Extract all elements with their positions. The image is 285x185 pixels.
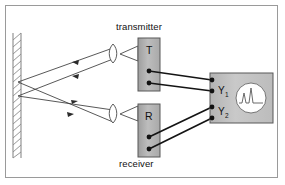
transmitter-horn bbox=[120, 46, 138, 61]
receiver-label: receiver bbox=[119, 158, 154, 169]
beam-arrowheads bbox=[67, 60, 79, 117]
scope-input-y1a bbox=[210, 78, 215, 83]
beam-paths bbox=[18, 48, 113, 122]
scope-label-y1-sub: 1 bbox=[225, 91, 229, 98]
receiver-lens bbox=[109, 104, 117, 123]
scope-label-y1: Y bbox=[218, 85, 225, 96]
scope-screen bbox=[236, 83, 266, 113]
scope-input-y2b bbox=[210, 116, 215, 121]
scope-input-y2a bbox=[210, 105, 215, 110]
receiver-horn bbox=[120, 106, 138, 121]
transmitter-box-label: T bbox=[146, 44, 153, 56]
transmitter-label: transmitter bbox=[116, 21, 162, 32]
scope-input-y1b bbox=[210, 89, 215, 94]
receiver-box-label: R bbox=[145, 110, 153, 122]
diagram-canvas: T R Y 1 Y 2 bbox=[0, 0, 285, 185]
scope-label-y2-sub: 2 bbox=[225, 112, 229, 119]
scope-label-y2: Y bbox=[218, 106, 225, 117]
oscilloscope[interactable]: Y 1 Y 2 bbox=[210, 73, 273, 123]
transmitter-lens bbox=[109, 44, 117, 63]
